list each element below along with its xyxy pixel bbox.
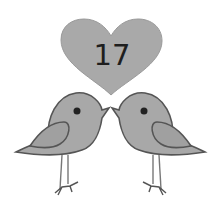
heart-number-label: 17 [86,38,138,72]
left-bird-icon [16,93,109,195]
right-bird-icon [112,93,205,195]
birds-and-heart-graphic [0,0,221,217]
illustration-canvas: 17 [0,0,221,217]
